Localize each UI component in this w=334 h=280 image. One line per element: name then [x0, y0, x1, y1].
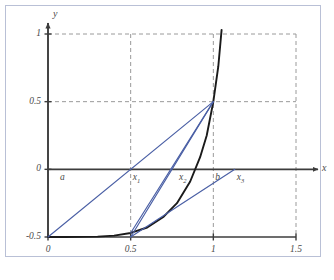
point-label-b: b: [215, 173, 220, 183]
axis-lines: [45, 23, 319, 241]
point-label-x1: x1: [133, 173, 140, 184]
x-tick-0.5: 0.5: [125, 245, 137, 255]
data-curves: [48, 30, 235, 237]
plot-canvas: [0, 0, 334, 280]
x-tick-0: 0: [46, 245, 51, 255]
point-label-x3: x3: [237, 173, 244, 184]
y-axis-name: y: [53, 9, 57, 19]
series-f(x): [48, 30, 222, 237]
y-tick-0.5: 0.5: [29, 97, 41, 107]
page-caption-artifact: [6, 266, 326, 276]
point-label-x2: x2: [179, 173, 186, 184]
point-label-a: a: [60, 173, 65, 183]
figure-container: -0.500.5100.511.5yxax1x2bx3: [0, 0, 334, 280]
x-tick-1: 1: [211, 245, 216, 255]
series-secant-3: [131, 102, 214, 233]
x-axis-name: x: [322, 163, 326, 173]
x-tick-1.5: 1.5: [290, 245, 302, 255]
y-tick-1: 1: [36, 29, 41, 39]
y-tick--0.5: -0.5: [26, 232, 41, 242]
y-tick-0: 0: [36, 164, 41, 174]
